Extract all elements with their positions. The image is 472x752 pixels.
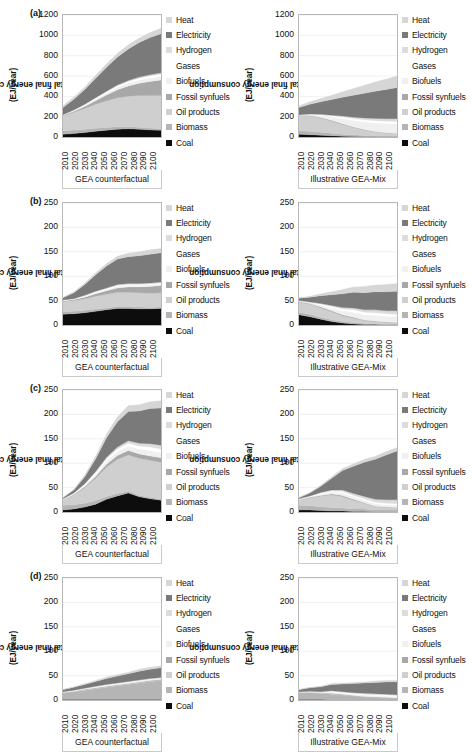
legend-swatch-icon bbox=[166, 47, 172, 53]
x-axis-tick-label: 2060 bbox=[110, 527, 119, 545]
y-axis-tick-label: 50 bbox=[284, 295, 294, 305]
y-axis-tick-label: 800 bbox=[280, 50, 294, 60]
x-axis-tick-label: 2030 bbox=[81, 527, 90, 545]
y-axis-tick-label: 800 bbox=[44, 50, 58, 60]
legend-item: Gases bbox=[402, 58, 472, 73]
x-axis-tick-label: 2090 bbox=[139, 715, 148, 733]
x-axis-tick-label: 2080 bbox=[366, 152, 375, 170]
legend-item-label: Coal bbox=[412, 701, 429, 711]
legend-item-label: Biomass bbox=[176, 310, 208, 320]
legend-swatch-icon bbox=[402, 469, 408, 475]
y-axis-tick-label: 150 bbox=[44, 621, 58, 631]
x-axis-tick-label: 2040 bbox=[90, 152, 99, 170]
legend-item-label: Biomass bbox=[412, 685, 444, 695]
legend-item-label: Fossil synfuels bbox=[176, 280, 230, 290]
y-axis-tick-label: 250 bbox=[280, 384, 294, 394]
x-axis-title: GEA counterfactual bbox=[75, 549, 149, 559]
legend-item: Fossil synfuels bbox=[402, 464, 472, 479]
legend-item-label: Coal bbox=[412, 513, 429, 523]
legend-swatch-icon bbox=[402, 297, 408, 303]
legend-item-label: Electricity bbox=[176, 593, 211, 603]
x-axis-tick-labels: 2010202020302040205020602070208020902100 bbox=[298, 136, 396, 170]
legend-item-label: Heat bbox=[176, 203, 193, 213]
legend-item-label: Coal bbox=[176, 326, 193, 336]
legend-item-label: Gases bbox=[412, 61, 436, 71]
legend-item: Fossil synfuels bbox=[402, 652, 472, 667]
x-axis-tick-label: 2080 bbox=[366, 715, 375, 733]
legend-swatch-icon bbox=[166, 407, 172, 413]
legend-item: Electricity bbox=[402, 402, 472, 417]
legend-item-label: Fossil synfuels bbox=[412, 92, 466, 102]
legend-swatch-icon bbox=[166, 63, 172, 69]
legend-item-label: Electricity bbox=[412, 218, 447, 228]
legend-swatch-icon bbox=[402, 17, 408, 23]
x-axis-tick-label: 2100 bbox=[149, 340, 158, 358]
legend-item: Heat bbox=[402, 12, 472, 27]
legend-item-label: Gases bbox=[412, 436, 436, 446]
legend-swatch-icon bbox=[166, 703, 172, 709]
y-axis-tick-label: 100 bbox=[44, 457, 58, 467]
y-axis-tick-label: 150 bbox=[280, 621, 294, 631]
y-axis-tick-label: 200 bbox=[280, 408, 294, 418]
x-axis-tick-label: 2070 bbox=[356, 152, 365, 170]
legend-item: Fossil synfuels bbox=[402, 277, 472, 292]
x-axis-title-box: GEA counterfactual bbox=[62, 170, 162, 189]
legend-item: Coal bbox=[402, 698, 472, 713]
legend-swatch-icon bbox=[166, 78, 172, 84]
plot-area-a-left bbox=[62, 14, 162, 138]
legend-item: Hydrogen bbox=[402, 231, 472, 246]
y-axis-tick-label: 0 bbox=[289, 694, 294, 704]
legend-swatch-icon bbox=[166, 312, 172, 318]
x-axis-title-box: Illustrative GEA-Mix bbox=[298, 170, 398, 189]
legend-item-label: Biomass bbox=[176, 685, 208, 695]
legend-item: Biomass bbox=[402, 683, 472, 698]
legend-item-label: Hydrogen bbox=[412, 420, 448, 430]
x-axis-tick-label: 2040 bbox=[326, 715, 335, 733]
legend-item: Oil products bbox=[402, 479, 472, 494]
legend-item-label: Oil products bbox=[412, 670, 456, 680]
legend-item-label: Coal bbox=[176, 138, 193, 148]
chart-panel-c-left: Total final energy consumption(EJ/year)0… bbox=[0, 375, 236, 563]
x-axis-title: Illustrative GEA-Mix bbox=[310, 737, 385, 747]
y-axis-tick-label: 0 bbox=[289, 319, 294, 329]
panel-row-(b): (b)Total final energy consumption(EJ/yea… bbox=[0, 188, 472, 376]
legend-item: Coal bbox=[402, 135, 472, 150]
legend-item-label: Oil products bbox=[412, 107, 456, 117]
x-axis-tick-label: 2070 bbox=[120, 340, 129, 358]
y-axis-tick-label: 200 bbox=[44, 596, 58, 606]
legend-item-label: Hydrogen bbox=[176, 420, 212, 430]
chart-panel-a-left: Total final energy consumption(EJ/year)0… bbox=[0, 0, 236, 188]
legend-item-label: Gases bbox=[176, 624, 200, 634]
x-axis-tick-label: 2030 bbox=[317, 152, 326, 170]
chart-panel-b-left: Total final energy consumption(EJ/year)0… bbox=[0, 188, 236, 376]
x-axis-tick-label: 2020 bbox=[71, 152, 80, 170]
x-axis-tick-label: 2010 bbox=[297, 152, 306, 170]
x-axis-tick-label: 2030 bbox=[81, 152, 90, 170]
y-axis-tick-labels: 050100150200250 bbox=[28, 202, 58, 324]
x-axis-tick-label: 2070 bbox=[120, 152, 129, 170]
y-axis-title: Total final energy consumption(EJ/year) bbox=[2, 385, 24, 535]
panel-row-(a): (a)Total final energy consumption(EJ/yea… bbox=[0, 0, 472, 188]
legend-swatch-icon bbox=[166, 109, 172, 115]
legend-swatch-icon bbox=[166, 205, 172, 211]
x-axis-tick-label: 2100 bbox=[385, 152, 394, 170]
legend-swatch-icon bbox=[166, 220, 172, 226]
legend-item: Biofuels bbox=[402, 637, 472, 652]
legend-item-label: Hydrogen bbox=[412, 233, 448, 243]
legend-item-label: Fossil synfuels bbox=[176, 655, 230, 665]
legend-item-label: Oil products bbox=[412, 482, 456, 492]
x-axis-title: GEA counterfactual bbox=[75, 737, 149, 747]
legend-swatch-icon bbox=[402, 703, 408, 709]
legend-swatch-icon bbox=[402, 220, 408, 226]
legend-swatch-icon bbox=[402, 328, 408, 334]
x-axis-tick-label: 2100 bbox=[385, 715, 394, 733]
legend-item: Hydrogen bbox=[402, 418, 472, 433]
x-axis-tick-label: 2060 bbox=[346, 527, 355, 545]
legend-item-label: Heat bbox=[412, 203, 429, 213]
y-axis-title: Total final energy consumption(EJ/year) bbox=[2, 573, 24, 723]
y-axis-tick-label: 1000 bbox=[39, 29, 58, 39]
x-axis-tick-label: 2020 bbox=[71, 715, 80, 733]
legend-swatch-icon bbox=[166, 251, 172, 257]
legend-swatch-icon bbox=[166, 687, 172, 693]
legend-item-label: Oil products bbox=[176, 295, 220, 305]
